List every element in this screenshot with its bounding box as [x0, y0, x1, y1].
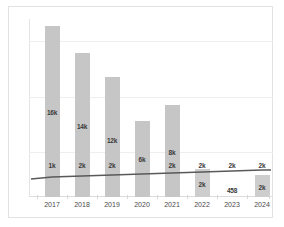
x-tick-2019: 2019	[97, 201, 127, 208]
chart-frame: 16k 14k 12k 6k 8k 2k 2k 2k 1k 2k 2k 2k 2…	[8, 6, 273, 218]
x-tick-2021: 2021	[157, 201, 187, 208]
x-tick-2018: 2018	[67, 201, 97, 208]
trend-line	[29, 19, 273, 197]
tick-mark	[247, 195, 248, 199]
tick-mark	[269, 195, 270, 199]
x-axis: 2017 2018 2019 2020 2021 2022 2023 2024	[29, 199, 273, 215]
tick-mark	[187, 195, 188, 199]
tick-mark	[37, 195, 38, 199]
tick-mark	[157, 195, 158, 199]
line-label-2021: 2k	[159, 162, 185, 169]
tick-mark	[67, 195, 68, 199]
under-label-2022: 2k	[189, 181, 215, 188]
x-tick-2020: 2020	[127, 201, 157, 208]
x-tick-2017: 2017	[37, 201, 67, 208]
x-tick-2023: 2023	[217, 201, 247, 208]
plot-area: 16k 14k 12k 6k 8k 2k 2k 2k 1k 2k 2k 2k 2…	[29, 19, 273, 197]
x-tick-2024: 2024	[247, 201, 277, 208]
under-label-2023: 458	[219, 187, 245, 194]
tick-mark	[97, 195, 98, 199]
line-label-2018: 2k	[69, 162, 95, 169]
line-label-2019: 2k	[99, 162, 125, 169]
line-label-2017: 1k	[39, 162, 65, 169]
tick-mark	[217, 195, 218, 199]
tick-mark	[127, 195, 128, 199]
x-tick-2022: 2022	[187, 201, 217, 208]
under-label-2024: 2k	[249, 184, 275, 191]
